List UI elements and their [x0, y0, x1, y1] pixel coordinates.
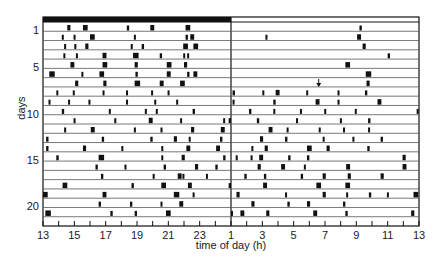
- x-tick-label: 21: [162, 229, 174, 241]
- activity-bout: [223, 118, 225, 123]
- arrow-annotation: [316, 79, 321, 87]
- activity-bout: [285, 137, 287, 142]
- activity-bout: [215, 165, 217, 170]
- activity-bout: [88, 100, 90, 105]
- activity-bout: [174, 192, 179, 198]
- activity-bout: [176, 100, 178, 105]
- activity-bout: [319, 127, 321, 132]
- activity-bout: [265, 35, 267, 40]
- activity-bout: [182, 155, 185, 161]
- activity-bout: [193, 192, 195, 197]
- activity-bout: [357, 34, 361, 40]
- activity-bout: [324, 109, 326, 114]
- dark-period-bar: [43, 17, 231, 22]
- activity-bout: [121, 146, 123, 151]
- activity-bout: [316, 183, 321, 189]
- activity-bout: [346, 192, 348, 197]
- activity-bout: [240, 210, 244, 216]
- activity-bout: [132, 183, 134, 188]
- activity-bout: [187, 72, 189, 77]
- activity-bout: [367, 146, 369, 151]
- activity-bout: [102, 137, 104, 142]
- activity-bout: [323, 173, 326, 179]
- activity-bout: [327, 146, 330, 152]
- activity-bout: [377, 99, 381, 105]
- activity-bout: [62, 109, 64, 114]
- activity-bout: [183, 53, 185, 58]
- activity-bout: [220, 137, 222, 142]
- activity-bout: [68, 100, 70, 105]
- activity-bout: [236, 155, 238, 160]
- activity-bout: [154, 100, 156, 105]
- activity-bout: [381, 173, 384, 179]
- activity-bout: [149, 118, 153, 124]
- activity-bout: [99, 155, 104, 161]
- activity-bout: [73, 90, 75, 95]
- activity-bout: [85, 44, 88, 50]
- x-tick-label: 17: [100, 229, 112, 241]
- activity-bout: [307, 155, 309, 160]
- activity-bout: [288, 155, 290, 160]
- activity-bout: [76, 53, 78, 58]
- activity-bout: [193, 109, 195, 114]
- activity-bout: [387, 192, 389, 197]
- activity-bout: [150, 137, 152, 142]
- activity-bout: [223, 155, 225, 160]
- activity-bout: [56, 90, 58, 95]
- activity-bout: [348, 173, 351, 179]
- activity-bout: [251, 155, 253, 160]
- activity-bout: [244, 174, 246, 179]
- activity-bout: [281, 164, 285, 170]
- x-tick-label: 11: [382, 229, 393, 241]
- activity-bout: [355, 109, 357, 114]
- activity-bout: [178, 173, 182, 179]
- activity-bout: [134, 35, 136, 40]
- activity-bout: [103, 81, 106, 87]
- activity-bout: [414, 192, 419, 198]
- activity-bout: [258, 164, 261, 170]
- activity-bout: [265, 146, 268, 152]
- activity-bout: [403, 164, 407, 170]
- activity-bout: [381, 137, 383, 142]
- activity-bout: [316, 99, 320, 105]
- activity-bout: [338, 90, 340, 95]
- activity-bout: [164, 165, 166, 170]
- activity-bout: [343, 202, 345, 207]
- activity-bout: [366, 71, 371, 77]
- light-dark-bar: [43, 17, 419, 22]
- activity-bout: [151, 90, 153, 95]
- activity-bout: [323, 137, 325, 142]
- activity-bout: [126, 100, 128, 105]
- activity-bout: [190, 34, 194, 40]
- activity-bout: [161, 155, 163, 160]
- activity-bout: [134, 127, 136, 132]
- activity-bout: [369, 192, 371, 197]
- activity-bout: [114, 118, 116, 123]
- activity-bout: [145, 109, 147, 114]
- activity-bout: [260, 136, 263, 142]
- activity-bout: [46, 137, 48, 142]
- activity-bout: [233, 90, 235, 95]
- activity-bout: [75, 81, 78, 87]
- activity-bout: [103, 90, 105, 95]
- activity-bout: [343, 127, 345, 132]
- activity-bout: [167, 62, 172, 68]
- activity-bout: [161, 202, 163, 207]
- activity-bout: [264, 174, 266, 179]
- activity-bout: [300, 109, 302, 114]
- activity-bout: [345, 211, 347, 216]
- x-tick-label: 13: [37, 229, 49, 241]
- activity-bout: [67, 25, 70, 31]
- activity-bout: [191, 127, 194, 132]
- activity-bout: [221, 127, 225, 132]
- activity-bout: [46, 146, 48, 151]
- y-axis-ticks: 15101520: [27, 24, 39, 212]
- activity-bout: [296, 118, 298, 123]
- activity-bout: [135, 211, 137, 216]
- activity-bout: [43, 192, 48, 198]
- activity-bout: [368, 127, 370, 132]
- activity-bout: [251, 146, 253, 151]
- activity-bout: [345, 62, 350, 68]
- activity-bout: [301, 174, 303, 179]
- activity-bout: [90, 34, 95, 40]
